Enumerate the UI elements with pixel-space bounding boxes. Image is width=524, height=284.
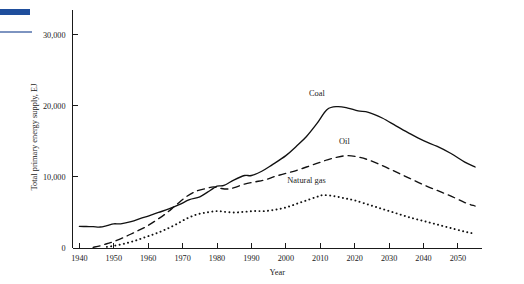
y-tick-label: 20,000 xyxy=(43,102,66,111)
data-series-group xyxy=(79,107,475,248)
x-tick-label: 1940 xyxy=(71,254,87,263)
x-tick-label: 1990 xyxy=(243,254,259,263)
x-tick-label: 2020 xyxy=(346,254,362,263)
x-tick-label: 1980 xyxy=(209,254,225,263)
x-tick-label: 2000 xyxy=(278,254,294,263)
y-tick-label: 0 xyxy=(61,244,65,253)
chart-canvas: 010,00020,00030,000 Total primary energy… xyxy=(0,0,524,284)
x-axis-ticks: 1940195019601970198019902000201020202030… xyxy=(71,243,466,263)
x-tick-label: 2030 xyxy=(381,254,397,263)
x-tick-label: 2050 xyxy=(450,254,466,263)
series-line-oil xyxy=(93,156,475,248)
x-axis: 1940195019601970198019902000201020202030… xyxy=(71,243,482,277)
y-axis-title: Total primary energy supply, EJ xyxy=(30,83,39,191)
x-tick-label: 1960 xyxy=(140,254,156,263)
series-label-oil: Oil xyxy=(339,137,350,146)
series-label-natural-gas: Natural gas xyxy=(287,176,325,185)
energy-supply-chart-figure: 010,00020,00030,000 Total primary energy… xyxy=(0,0,524,284)
x-tick-label: 2010 xyxy=(312,254,328,263)
series-label-coal: Coal xyxy=(309,89,325,98)
y-tick-label: 30,000 xyxy=(43,31,66,40)
x-tick-label: 2040 xyxy=(415,254,431,263)
series-line-natural-gas xyxy=(107,195,475,247)
y-tick-label: 10,000 xyxy=(43,173,66,182)
y-axis: 010,00020,00030,000 Total primary energy… xyxy=(30,10,78,253)
x-tick-label: 1950 xyxy=(106,254,122,263)
x-tick-label: 1970 xyxy=(174,254,190,263)
x-axis-title: Year xyxy=(270,268,286,277)
